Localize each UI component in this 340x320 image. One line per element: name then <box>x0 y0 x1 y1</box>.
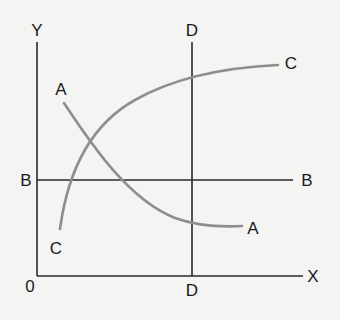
line-d-top-label: D <box>186 21 198 40</box>
line-d-bottom-label: D <box>186 281 198 300</box>
curve-a-start-label: A <box>55 80 67 99</box>
curve-a-end-label: A <box>247 219 259 238</box>
line-b-right-label: B <box>301 171 312 190</box>
curve-a <box>64 103 242 226</box>
line-b-left-label: B <box>20 171 31 190</box>
origin-label: 0 <box>25 277 34 296</box>
x-axis-label: X <box>307 267 318 286</box>
y-axis-label: Y <box>31 21 42 40</box>
diagram-canvas: Y X 0 D D B B A A C C <box>0 0 340 320</box>
curve-c-end-label: C <box>285 54 297 73</box>
curve-c <box>60 65 278 229</box>
curve-c-start-label: C <box>50 239 62 258</box>
